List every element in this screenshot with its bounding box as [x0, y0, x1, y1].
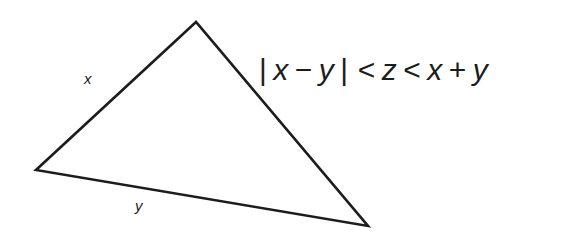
- variable-y-first: y: [319, 53, 335, 86]
- abs-bar-open: |: [259, 53, 267, 86]
- less-than-operator-first: <: [358, 53, 376, 86]
- figure-canvas: x y |x−y|<z<x+y: [0, 0, 563, 242]
- background-rect: [0, 0, 563, 242]
- side-label-x: x: [84, 71, 92, 86]
- side-label-y: y: [135, 198, 143, 213]
- less-than-operator-second: <: [403, 53, 421, 86]
- variable-x-first: x: [273, 53, 289, 86]
- minus-operator: −: [295, 53, 313, 86]
- plus-operator: +: [449, 53, 467, 86]
- triangle-inequality-formula: |x−y|<z<x+y: [259, 53, 488, 87]
- variable-x-second: x: [427, 53, 443, 86]
- abs-bar-close: |: [340, 53, 348, 86]
- triangle-figure: [0, 0, 563, 242]
- variable-y-second: y: [473, 53, 489, 86]
- variable-z: z: [382, 53, 398, 86]
